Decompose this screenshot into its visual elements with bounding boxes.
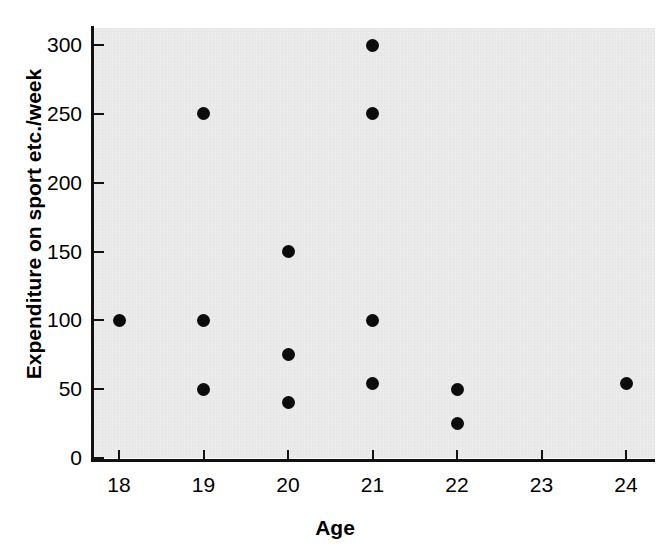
- data-point: [282, 396, 295, 409]
- y-axis-tick-label: 200: [40, 172, 82, 193]
- data-point: [282, 245, 295, 258]
- data-point: [451, 383, 464, 396]
- y-axis-tick-label: 150: [40, 241, 82, 262]
- x-axis-title: Age: [0, 516, 670, 540]
- x-axis-tick-label: 18: [89, 474, 149, 495]
- y-axis-tick-label: 250: [40, 103, 82, 124]
- y-axis-tick-mark: [94, 457, 104, 459]
- x-axis-tick-mark: [372, 450, 374, 460]
- x-axis-tick-label: 24: [596, 474, 656, 495]
- y-axis-title: Expenditure on sport etc./week: [22, 14, 46, 434]
- data-point: [620, 377, 633, 390]
- x-axis-tick-mark: [118, 450, 120, 460]
- data-point: [282, 348, 295, 361]
- data-point: [197, 314, 210, 327]
- x-axis-tick-mark: [287, 450, 289, 460]
- y-axis-tick-mark: [94, 319, 104, 321]
- y-axis-tick-mark: [94, 113, 104, 115]
- plot-area: [93, 28, 655, 458]
- x-axis-tick-label: 21: [343, 474, 403, 495]
- x-axis-tick-label: 20: [258, 474, 318, 495]
- data-point: [366, 39, 379, 52]
- x-axis-tick-label: 22: [427, 474, 487, 495]
- y-axis-tick-mark: [94, 388, 104, 390]
- y-axis-tick-mark: [94, 44, 104, 46]
- scatter-chart-figure: 050100150200250300 18192021222324 Expend…: [0, 0, 670, 557]
- y-axis-tick-label: 0: [40, 447, 82, 468]
- y-axis-tick-label: 300: [40, 34, 82, 55]
- x-axis-tick-mark: [541, 450, 543, 460]
- data-point: [366, 314, 379, 327]
- data-point: [451, 417, 464, 430]
- y-axis-line: [91, 26, 94, 462]
- x-axis-tick-mark: [625, 450, 627, 460]
- y-axis-tick-label: 100: [40, 309, 82, 330]
- x-axis-tick-label: 23: [512, 474, 572, 495]
- data-point: [113, 314, 126, 327]
- x-axis-tick-mark: [456, 450, 458, 460]
- y-axis-tick-mark: [94, 182, 104, 184]
- x-axis-tick-label: 19: [174, 474, 234, 495]
- y-axis-tick-mark: [94, 251, 104, 253]
- x-axis-tick-mark: [203, 450, 205, 460]
- data-point: [197, 383, 210, 396]
- y-axis-tick-label: 50: [40, 378, 82, 399]
